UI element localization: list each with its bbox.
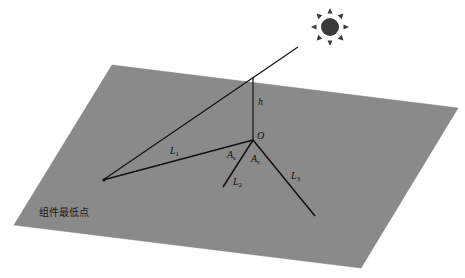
sun-icon [311,8,349,46]
label-azimuth-left: As [227,150,236,162]
label-h: h [258,97,263,107]
label-o: O [257,131,264,141]
label-l2: L2 [233,177,242,189]
label-azimuth-left-sub: s [233,154,236,162]
label-l3: L3 [291,171,300,183]
label-l2-sub: 2 [239,181,243,189]
label-l1-sub: 1 [176,150,180,158]
label-l1: L1 [170,146,179,158]
label-l3-sub: 3 [297,175,301,183]
label-azimuth-right-sub: s [257,158,260,166]
diagram-canvas [0,0,465,278]
label-lowest-point: 组件最低点 [39,208,89,218]
shadow-tip-point [102,178,105,181]
label-azimuth-right: As [251,154,260,166]
